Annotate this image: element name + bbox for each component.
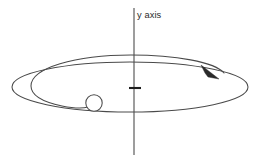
orbiting-ball <box>86 95 102 111</box>
orbit-diagram-svg: y axis <box>0 0 261 160</box>
y-axis-label: y axis <box>137 10 162 20</box>
background-plate <box>0 0 261 160</box>
orbit-diagram-canvas: y axis <box>0 0 261 160</box>
